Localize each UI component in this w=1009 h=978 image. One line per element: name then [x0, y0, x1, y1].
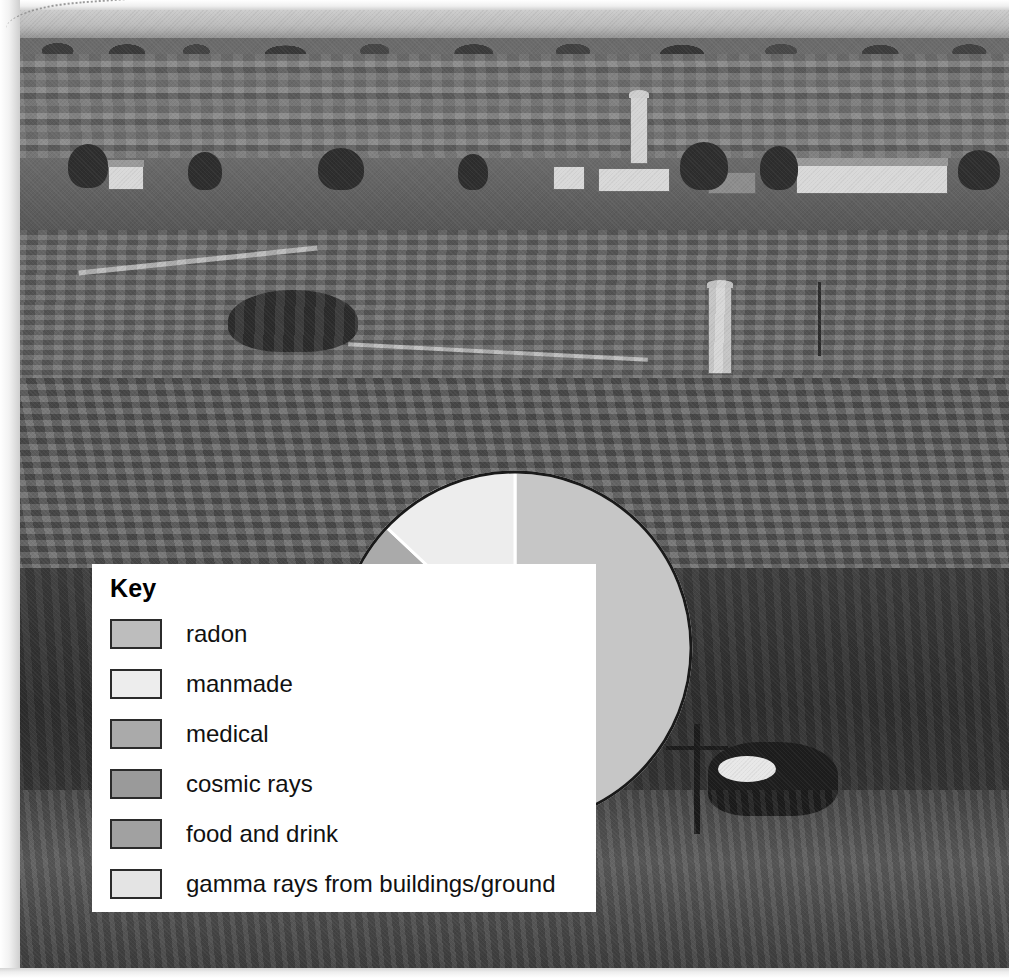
fence-post — [694, 724, 700, 834]
tree-lone-center — [228, 290, 358, 352]
key-row-food-and-drink[interactable]: food and drink — [110, 816, 338, 852]
midground-band — [18, 158, 1009, 238]
barn-roof — [794, 158, 948, 166]
key-row-radon[interactable]: radon — [110, 616, 247, 652]
key-label-radon: radon — [186, 622, 247, 646]
key-label-cosmic-rays: cosmic rays — [186, 772, 313, 796]
page-bottom-edge — [0, 968, 1009, 978]
page-top-edge — [0, 0, 1009, 10]
farm-house-left — [108, 166, 144, 190]
key-swatch-medical — [110, 719, 162, 749]
farm-house-left-roof — [106, 160, 144, 167]
key-swatch-cosmic-rays — [110, 769, 162, 799]
tree-1 — [68, 144, 108, 188]
key-row-gamma-rays[interactable]: gamma rays from buildings/ground — [110, 866, 556, 902]
silo-center — [708, 286, 732, 374]
key-label-gamma-rays: gamma rays from buildings/ground — [186, 872, 556, 896]
tree-6 — [760, 146, 798, 190]
farm-track-upper — [78, 245, 317, 275]
key-title: Key — [110, 574, 156, 603]
tree-5 — [680, 142, 728, 190]
farm-building-a — [598, 168, 670, 192]
midground-field — [18, 230, 1009, 400]
key-row-cosmic-rays[interactable]: cosmic rays — [110, 766, 313, 802]
key-row-medical[interactable]: medical — [110, 716, 269, 752]
utility-pole-mid — [818, 282, 821, 356]
silo-tall — [630, 96, 648, 164]
key-label-manmade: manmade — [186, 672, 293, 696]
key-label-medical: medical — [186, 722, 269, 746]
tree-3 — [318, 148, 364, 190]
key-swatch-radon — [110, 619, 162, 649]
key-swatch-manmade — [110, 669, 162, 699]
barn-white — [796, 164, 948, 194]
figure-canvas: Key radon manmade medical cosmic rays fo… — [0, 0, 1009, 978]
key-panel: Key radon manmade medical cosmic rays fo… — [92, 564, 596, 912]
farm-house-center — [553, 166, 585, 190]
tree-2 — [188, 152, 222, 190]
farm-track-lower — [348, 342, 648, 362]
key-swatch-food-and-drink — [110, 819, 162, 849]
tree-4 — [458, 154, 488, 190]
key-row-manmade[interactable]: manmade — [110, 666, 293, 702]
tree-7 — [958, 150, 1000, 190]
key-swatch-gamma-rays — [110, 869, 162, 899]
key-label-food-and-drink: food and drink — [186, 822, 338, 846]
page-left-edge — [0, 0, 20, 978]
cow-white-patch — [718, 756, 776, 782]
